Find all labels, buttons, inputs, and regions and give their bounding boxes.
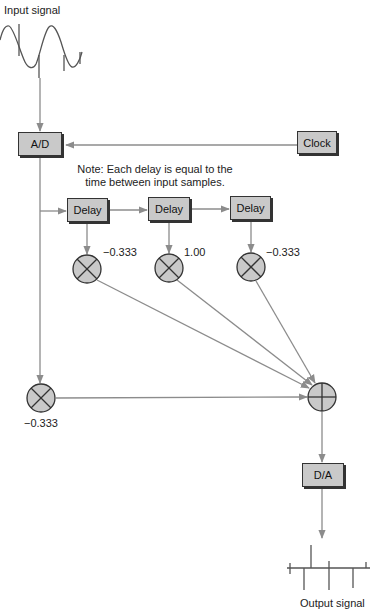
delay-block-2: Delay [148, 197, 190, 221]
delay-block-1: Delay [67, 198, 108, 222]
adc-block: A/D [18, 132, 62, 156]
multiplier-tap2-icon [155, 254, 183, 282]
summer-icon [308, 383, 336, 411]
coefficient-tap0: −0.333 [24, 417, 58, 430]
output-signal-label: Output signal [300, 597, 365, 610]
multiplier-tap0-icon [27, 384, 55, 412]
dac-block: D/A [302, 463, 344, 487]
input-signal-waveform [0, 24, 82, 78]
output-signal-waveform [287, 545, 370, 590]
note-text: Note: Each delay is equal to the time be… [70, 163, 240, 189]
coefficient-tap2: 1.00 [184, 246, 205, 259]
input-signal-label: Input signal [4, 4, 60, 17]
coefficient-tap3: −0.333 [266, 246, 300, 259]
signal-lines [40, 78, 322, 538]
delay-block-3: Delay [230, 196, 271, 220]
note-line-2: time between input samples. [70, 176, 240, 189]
clock-block: Clock [297, 131, 337, 154]
multiplier-tap3-icon [237, 253, 265, 281]
note-line-1: Note: Each delay is equal to the [70, 163, 240, 176]
filter-diagram [0, 0, 377, 613]
multiplier-tap1-icon [73, 255, 101, 283]
coefficient-tap1: −0.333 [103, 246, 137, 259]
